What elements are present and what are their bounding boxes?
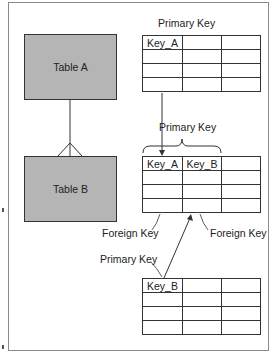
column-header-key-a: Key_A bbox=[143, 36, 183, 50]
cell bbox=[143, 171, 183, 185]
cell bbox=[183, 293, 222, 307]
primary-key-label-top: Primary Key bbox=[158, 17, 215, 29]
cell bbox=[222, 321, 261, 335]
cell bbox=[222, 36, 261, 50]
cell bbox=[143, 64, 183, 78]
table-row bbox=[143, 293, 261, 307]
primary-key-label-bottom: Primary Key bbox=[100, 253, 157, 265]
cell bbox=[222, 293, 261, 307]
table-b-structure: Key_A Key_B bbox=[142, 156, 261, 213]
table-row bbox=[143, 321, 261, 335]
foreign-key-label-left: Foreign Key bbox=[102, 227, 159, 239]
foreign-key-label-right: Foreign Key bbox=[210, 227, 267, 239]
cell bbox=[183, 185, 222, 199]
cell bbox=[143, 321, 183, 335]
cell bbox=[222, 171, 261, 185]
cell bbox=[183, 78, 222, 92]
cell bbox=[143, 307, 183, 321]
table-row: Key_A bbox=[143, 36, 261, 50]
cell bbox=[222, 78, 261, 92]
cell bbox=[183, 64, 222, 78]
column-header-key-b: Key_B bbox=[143, 279, 183, 293]
cell bbox=[222, 185, 261, 199]
cell bbox=[222, 157, 261, 171]
table-row: Key_B bbox=[143, 279, 261, 293]
cell bbox=[143, 185, 183, 199]
cell bbox=[183, 321, 222, 335]
table-row: Key_A Key_B bbox=[143, 157, 261, 171]
table-row bbox=[143, 50, 261, 64]
cell bbox=[183, 279, 222, 293]
cell bbox=[143, 50, 183, 64]
table-a-structure: Key_A bbox=[142, 35, 261, 92]
cell bbox=[183, 307, 222, 321]
cell bbox=[143, 78, 183, 92]
table-row bbox=[143, 171, 261, 185]
table-row bbox=[143, 307, 261, 321]
table-row bbox=[143, 64, 261, 78]
primary-key-label-middle: Primary Key bbox=[159, 121, 216, 133]
column-header-key-a: Key_A bbox=[143, 157, 183, 171]
cell bbox=[222, 199, 261, 213]
table-key-b-structure: Key_B bbox=[142, 278, 261, 335]
cell bbox=[222, 64, 261, 78]
cell bbox=[143, 199, 183, 213]
cell bbox=[222, 307, 261, 321]
cell bbox=[183, 50, 222, 64]
table-row bbox=[143, 199, 261, 213]
table-row bbox=[143, 185, 261, 199]
cell bbox=[183, 199, 222, 213]
cell bbox=[143, 293, 183, 307]
cell bbox=[183, 36, 222, 50]
column-header-key-b: Key_B bbox=[183, 157, 222, 171]
table-row bbox=[143, 78, 261, 92]
cell bbox=[183, 171, 222, 185]
cell bbox=[222, 279, 261, 293]
cell bbox=[222, 50, 261, 64]
